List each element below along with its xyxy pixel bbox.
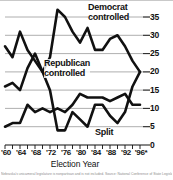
x-tick-label-1972: '72 [46, 149, 56, 157]
y-tick-label-10: 10 [150, 104, 159, 113]
x-tick-label-1992: '92 [121, 149, 131, 157]
chart-footnote: Nebraska's unicameral legislature is non… [1, 172, 172, 176]
chart-container: 35 30 25 20 15 10 5 0 '60 '64 '68 '72 '7… [0, 0, 173, 180]
x-tick-label-1980: '80 [76, 149, 86, 157]
series-annotation-democrat-line2: controlled [88, 13, 129, 23]
y-axis-labels: 35 30 25 20 15 10 5 0 [150, 0, 173, 180]
x-tick-label-1964: '64 [16, 149, 26, 157]
y-tick-label-25: 25 [150, 49, 159, 58]
y-tick-label-15: 15 [150, 86, 159, 95]
series-annotation-democrat: Democrat controlled [88, 3, 129, 22]
x-axis-title: Election Year [0, 160, 150, 169]
x-tick-label-1976: '76 [61, 149, 71, 157]
y-tick-label-35: 35 [150, 13, 159, 22]
x-tick-label-1968: '68 [31, 149, 41, 157]
series-annotation-republican-line2: controlled [44, 69, 90, 79]
y-tick-label-20: 20 [150, 67, 159, 76]
y-tick-label-0: 0 [150, 141, 155, 150]
x-tick-label-1988: '88 [106, 149, 116, 157]
y-tick-label-30: 30 [150, 31, 159, 40]
x-tick-label-1960: '60 [1, 149, 11, 157]
y-axis-ticks [143, 17, 150, 127]
y-tick-label-5: 5 [150, 122, 155, 131]
series-annotation-republican: Republican controlled [44, 59, 90, 78]
x-tick-label-1996: '96* [135, 149, 148, 157]
series-annotation-split: Split [95, 128, 113, 138]
x-tick-label-1984: '84 [91, 149, 101, 157]
